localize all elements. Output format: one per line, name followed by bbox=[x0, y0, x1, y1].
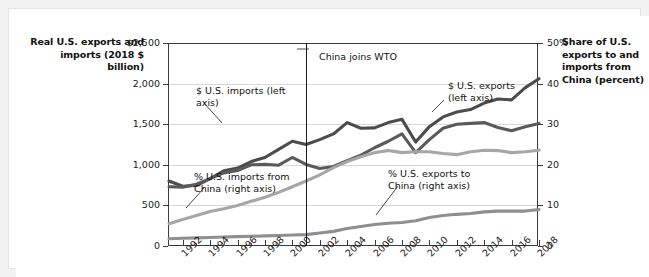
left-tick-mark bbox=[163, 84, 168, 85]
left-tick-label: 1,500 bbox=[98, 118, 160, 129]
plot-area bbox=[168, 43, 538, 246]
left-tick-label: 0 bbox=[98, 240, 160, 251]
left-tick-label: 500 bbox=[98, 199, 160, 210]
left-tick-label: 1,000 bbox=[98, 159, 160, 170]
annotation-pct-imports: % U.S. imports from China (right axis) bbox=[194, 171, 314, 194]
annotation-china-joins-wto: China joins WTO bbox=[319, 51, 397, 63]
wto-event-line bbox=[306, 43, 307, 246]
chart-figure: Real U.S. exports and imports (2018 $ bi… bbox=[0, 0, 649, 277]
left-tick-mark bbox=[163, 165, 168, 166]
right-tick-mark bbox=[538, 84, 543, 85]
right-tick-mark bbox=[538, 124, 543, 125]
series-lines bbox=[169, 43, 539, 246]
right-tick-label: 20 bbox=[547, 159, 597, 170]
left-tick-mark bbox=[163, 43, 168, 44]
right-tick-mark bbox=[538, 165, 543, 166]
left-tick-label: $2,500 bbox=[98, 37, 160, 48]
left-tick-mark bbox=[163, 124, 168, 125]
annotation-dollar-imports: $ U.S. imports (left axis) bbox=[196, 85, 292, 108]
annotation-dollar-exports: $ U.S. exports (left axis) bbox=[448, 80, 534, 103]
annotation-dollar-exports-line1: $ U.S. exports (left axis) bbox=[448, 80, 534, 103]
annotation-pct-exports: % U.S. exports to China (right axis) bbox=[388, 168, 498, 191]
left-tick-mark bbox=[163, 246, 168, 247]
right-tick-label: 30 bbox=[547, 118, 597, 129]
left-tick-mark bbox=[163, 205, 168, 206]
annotation-pct-exports-line1: % U.S. exports to China (right axis) bbox=[388, 168, 498, 191]
right-tick-label: 10 bbox=[547, 199, 597, 210]
chart-canvas: Real U.S. exports and imports (2018 $ bi… bbox=[16, 16, 649, 277]
annotation-pct-imports-line1: % U.S. imports from China (right axis) bbox=[194, 171, 314, 194]
right-tick-label: 50% bbox=[547, 37, 597, 48]
right-tick-mark bbox=[538, 205, 543, 206]
right-tick-label: 40 bbox=[547, 78, 597, 89]
annotation-dollar-imports-line1: $ U.S. imports (left axis) bbox=[196, 85, 292, 108]
right-tick-mark bbox=[538, 43, 543, 44]
left-tick-label: 2,000 bbox=[98, 78, 160, 89]
